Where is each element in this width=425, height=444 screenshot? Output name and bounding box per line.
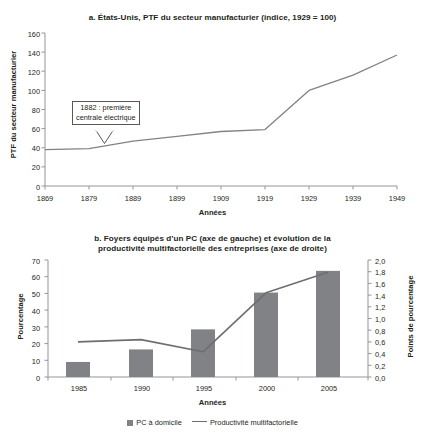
panel-b-plot (0, 222, 425, 444)
annotation-1882-line2: centrale électrique (76, 113, 136, 123)
chart-panel-a: a. États-Unis, PTF du secteur manufactur… (0, 0, 425, 222)
panel-b-y-ticks-left (45, 260, 49, 377)
panel-b-legend: PC à domicile Productivité multifactorie… (0, 417, 425, 427)
legend-bar-label: PC à domicile (136, 418, 182, 427)
legend-line-swatch-icon (192, 421, 207, 422)
legend-item-pc: PC à domicile (127, 418, 182, 427)
annotation-callout-tail (96, 131, 113, 144)
bar-1995 (191, 329, 215, 377)
bar-2000 (254, 293, 278, 377)
annotation-1882-line1: 1882 : première (76, 103, 136, 113)
legend-bar-swatch-icon (127, 420, 133, 426)
panel-a-y-ticks (42, 33, 46, 186)
bar-2005 (316, 271, 340, 377)
annotation-1882-box: 1882 : première centrale électrique (72, 101, 140, 125)
panel-a-plot (0, 0, 425, 222)
panel-b-x-ticks (48, 377, 368, 381)
panel-b-bars (66, 271, 340, 377)
panel-b-y-ticks-right (368, 260, 372, 377)
legend-line-label: Productivité multifactorielle (210, 418, 298, 427)
legend-item-productivity: Productivité multifactorielle (192, 418, 298, 427)
annotation-callout-mask (96, 129, 113, 132)
figure-container: a. États-Unis, PTF du secteur manufactur… (0, 0, 425, 444)
panel-a-x-ticks (45, 186, 397, 190)
bar-1990 (129, 349, 153, 377)
chart-panel-b: b. Foyers équipés d’un PC (axe de gauche… (0, 222, 425, 444)
bar-1985 (66, 362, 90, 377)
